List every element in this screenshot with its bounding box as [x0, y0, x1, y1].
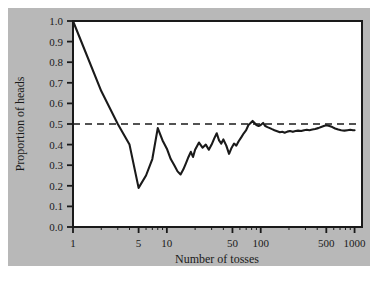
y-axis-title: Proportion of heads [13, 76, 27, 171]
y-tick-label-0.4: 0.4 [49, 139, 63, 151]
y-tick-label-0.3: 0.3 [49, 159, 63, 171]
x-tick-label-50: 50 [227, 237, 239, 249]
x-tick-label-500: 500 [318, 237, 335, 249]
y-tick-label-0.1: 0.1 [49, 200, 63, 212]
x-tick-label-1000: 1000 [344, 237, 367, 249]
y-tick-label-0.0: 0.0 [49, 221, 63, 233]
x-tick-label-5: 5 [136, 237, 142, 249]
y-tick-label-0.6: 0.6 [49, 97, 63, 109]
y-tick-label-0.9: 0.9 [49, 36, 63, 48]
y-tick-label-0.8: 0.8 [49, 56, 63, 68]
x-axis-title: Number of tosses [175, 252, 259, 266]
y-axis-tick-labels: 0.00.10.20.30.40.50.60.70.80.91.0 [49, 15, 63, 233]
y-tick-label-0.5: 0.5 [49, 118, 63, 130]
y-tick-label-0.7: 0.7 [49, 77, 63, 89]
y-tick-label-1.0: 1.0 [49, 15, 63, 27]
figure-container: 1510501005001000 0.00.10.20.30.40.50.60.… [0, 0, 386, 285]
y-tick-label-0.2: 0.2 [49, 180, 63, 192]
x-axis-tick-labels: 1510501005001000 [70, 237, 366, 249]
x-tick-label-10: 10 [161, 237, 173, 249]
x-tick-label-1: 1 [70, 237, 76, 249]
x-tick-label-100: 100 [252, 237, 269, 249]
coin-toss-proportion-chart: 1510501005001000 0.00.10.20.30.40.50.60.… [0, 0, 386, 285]
